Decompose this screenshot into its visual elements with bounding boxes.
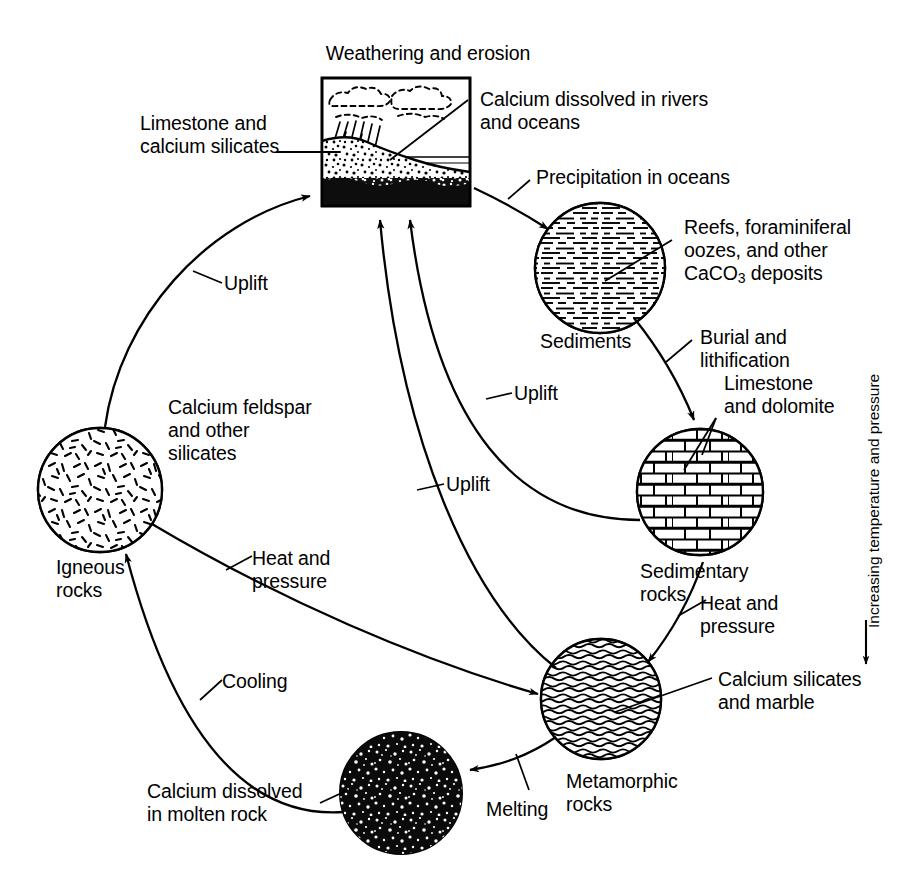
leader-precipitation xyxy=(508,180,530,199)
leader-melting xyxy=(516,754,529,790)
label-calcium-dissolved-in-molten-rock: Calcium dissolved in molten rock xyxy=(147,780,367,826)
caco3-pre: CaCO xyxy=(684,262,738,284)
sediments-circle xyxy=(533,201,667,335)
label-weathering-and-erosion: Weathering and erosion xyxy=(283,42,573,65)
arrow-uplift-metamorphic-to-weathering xyxy=(380,220,556,668)
metamorphic-rocks-circle xyxy=(539,637,665,763)
igneous-rocks-circle xyxy=(36,426,164,554)
rock-cycle-diagram: Weathering and erosion Limestone and cal… xyxy=(0,0,902,896)
label-increasing-temperature-and-pressure: Increasing temperature and pressure xyxy=(865,374,883,628)
label-cooling: Cooling xyxy=(222,670,287,693)
label-calcium-silicates-and-marble: Calcium silicates and marble xyxy=(718,668,902,714)
leader-uplift-mid-lower xyxy=(417,484,444,490)
label-sediments: Sediments xyxy=(540,330,631,353)
leader-burial xyxy=(666,340,692,362)
sedimentary-rocks-line2: rocks xyxy=(640,583,686,605)
label-uplift-mid-lower: Uplift xyxy=(446,473,490,496)
label-melting: Melting xyxy=(486,798,548,821)
arrow-melting xyxy=(470,737,556,770)
reefs-line12: Reefs, foraminiferal oozes, and other xyxy=(684,216,851,261)
leader-uplift-mid-upper xyxy=(486,393,512,399)
label-igneous-rocks: Igneousrocks xyxy=(56,556,196,602)
caco3-subscript: 3 xyxy=(738,270,746,286)
weathering-scene-box xyxy=(322,78,470,207)
label-uplift-left: Uplift xyxy=(224,272,268,295)
label-uplift-mid-upper: Uplift xyxy=(514,382,558,405)
label-calcium-dissolved-rivers-oceans: Calcium dissolved in rivers and oceans xyxy=(480,88,780,134)
label-limestone-and-calcium-silicates: Limestone and calcium silicates xyxy=(140,112,310,158)
arrow-burial-lithification xyxy=(634,318,694,420)
label-reefs-foraminiferal-oozes: Reefs, foraminiferal oozes, and otherCaC… xyxy=(684,216,902,290)
arrow-uplift-igneous-to-weathering xyxy=(105,196,310,427)
metamorphic-rocks-line1: Metamorphic xyxy=(566,770,678,792)
metamorphic-rocks-line2: rocks xyxy=(566,793,612,815)
caco3-post: deposits xyxy=(746,262,823,284)
sedimentary-rocks-line1: Sedimentary xyxy=(640,560,748,582)
leader-heat-pressure-left xyxy=(226,556,252,570)
igneous-rocks-line2: rocks xyxy=(56,579,102,601)
label-precipitation-in-oceans: Precipitation in oceans xyxy=(536,166,836,189)
vertical-axis-label-group: Increasing temperature and pressure xyxy=(845,360,871,660)
label-heat-and-pressure-left: Heat and pressure xyxy=(252,547,422,593)
igneous-rocks-line1: Igneous xyxy=(56,556,125,578)
arrow-precipitation-to-sediments xyxy=(474,188,548,229)
diagram-canvas xyxy=(0,0,902,896)
leader-uplift-left xyxy=(193,271,222,283)
sedimentary-rocks-circle xyxy=(635,427,767,559)
label-metamorphic-rocks: Metamorphicrocks xyxy=(566,770,746,816)
leader-cooling xyxy=(200,680,222,700)
label-calcium-feldspar-and-other-silicates: Calcium feldspar and other silicates xyxy=(168,396,368,465)
